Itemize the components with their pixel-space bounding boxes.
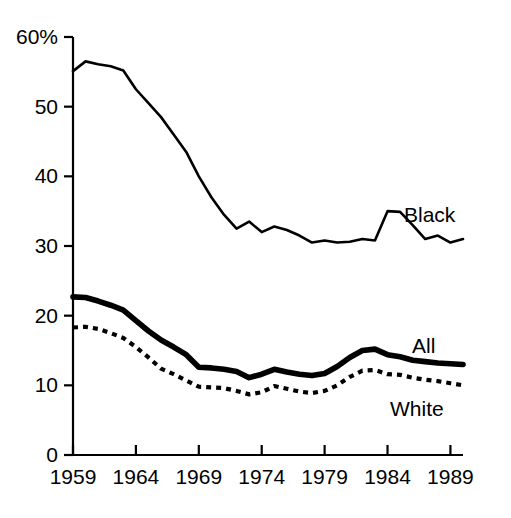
x-tick-label: 1964: [113, 465, 160, 488]
y-tick-label: 10: [35, 373, 58, 396]
y-tick-label: 20: [35, 304, 58, 327]
x-tick-label: 1979: [301, 465, 348, 488]
series-label-black: Black: [404, 203, 456, 226]
series-line-all: [73, 297, 463, 378]
y-tick-label: 50: [35, 95, 58, 118]
chart-container: 0102030405060% 1959196419691974197919841…: [0, 0, 511, 518]
x-tick-label: 1974: [238, 465, 285, 488]
series-label-all: All: [412, 334, 435, 357]
x-axis-labels: 1959196419691974197919841989: [50, 465, 474, 488]
x-tick-label: 1989: [427, 465, 474, 488]
x-tick-label: 1969: [175, 465, 222, 488]
y-tick-label: 60%: [16, 25, 58, 48]
y-axis-ticks: [64, 37, 73, 455]
y-tick-label: 40: [35, 164, 58, 187]
y-axis-labels: 0102030405060%: [16, 25, 58, 466]
axis-frame: [73, 37, 463, 455]
series-label-white: White: [390, 397, 444, 420]
y-tick-label: 0: [46, 443, 58, 466]
x-tick-label: 1984: [364, 465, 411, 488]
line-chart: 0102030405060% 1959196419691974197919841…: [0, 0, 511, 518]
x-tick-label: 1959: [50, 465, 97, 488]
y-tick-label: 30: [35, 234, 58, 257]
x-axis-ticks: [73, 445, 450, 455]
